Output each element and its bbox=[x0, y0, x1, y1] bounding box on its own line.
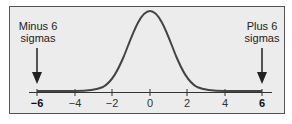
tick-label: 4 bbox=[215, 97, 235, 109]
label-line: Minus 6 bbox=[14, 20, 62, 32]
left-arrow-icon bbox=[32, 48, 42, 84]
right-arrow-icon bbox=[257, 48, 267, 84]
tick-label: 6 bbox=[252, 97, 272, 109]
tick-label: −2 bbox=[102, 97, 122, 109]
tick-label: −4 bbox=[65, 97, 85, 109]
tick-label: 2 bbox=[177, 97, 197, 109]
label-line: sigmas bbox=[240, 32, 284, 44]
minus-6-sigmas-label: Minus 6 sigmas bbox=[14, 20, 62, 44]
tick-label: 0 bbox=[140, 97, 160, 109]
label-line: Plus 6 bbox=[240, 20, 284, 32]
plus-6-sigmas-label: Plus 6 sigmas bbox=[240, 20, 284, 44]
tick-label: −6 bbox=[27, 97, 47, 109]
bell-curve bbox=[37, 11, 262, 91]
label-line: sigmas bbox=[14, 32, 62, 44]
